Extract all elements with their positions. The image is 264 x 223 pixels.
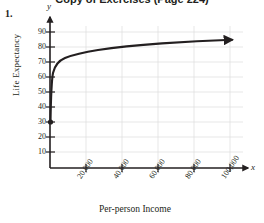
chart-canvas [0, 0, 264, 223]
curve-start-point [48, 119, 53, 124]
figure-page: Copy of Exercises (Page 224) 1. Life Exp… [0, 0, 264, 223]
grid-horizontal [50, 32, 243, 152]
data-curve [51, 40, 233, 122]
